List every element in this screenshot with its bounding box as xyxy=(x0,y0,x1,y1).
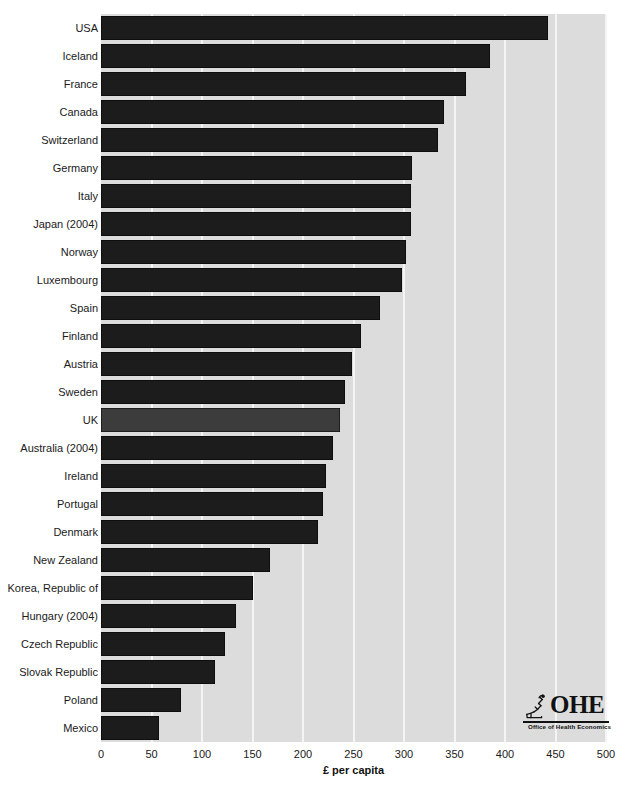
bar-row xyxy=(101,44,606,68)
bar xyxy=(101,72,466,96)
x-tick-label: 100 xyxy=(193,748,211,760)
y-axis-label: Ireland xyxy=(2,464,98,488)
x-tick-label: 400 xyxy=(496,748,514,760)
y-axis-label: Hungary (2004) xyxy=(2,604,98,628)
y-axis-label: France xyxy=(2,72,98,96)
y-axis-label: Finland xyxy=(2,324,98,348)
bar-row xyxy=(101,16,606,40)
microscope-icon xyxy=(522,692,552,722)
y-axis-label: Norway xyxy=(2,240,98,264)
bar-row xyxy=(101,100,606,124)
bar xyxy=(101,296,380,320)
y-axis-label: Mexico xyxy=(2,716,98,740)
bar-row xyxy=(101,380,606,404)
y-axis-label: Portugal xyxy=(2,492,98,516)
chart-figure: USAIcelandFranceCanadaSwitzerlandGermany… xyxy=(0,0,635,799)
y-axis-label: Japan (2004) xyxy=(2,212,98,236)
ohe-logo-wordmark: OHE xyxy=(550,691,604,719)
y-axis-label: Sweden xyxy=(2,380,98,404)
bar-row xyxy=(101,464,606,488)
x-axis-ticks: 050100150200250300350400450500 xyxy=(101,742,606,766)
y-axis-label: Germany xyxy=(2,156,98,180)
x-tick-label: 350 xyxy=(445,748,463,760)
bar-row xyxy=(101,72,606,96)
y-axis-label: Italy xyxy=(2,184,98,208)
bar-row xyxy=(101,212,606,236)
bar-row xyxy=(101,604,606,628)
y-axis-label: Poland xyxy=(2,688,98,712)
x-tick-label: 50 xyxy=(145,748,157,760)
bar xyxy=(101,184,411,208)
bar-row xyxy=(101,324,606,348)
bar-row xyxy=(101,408,606,432)
bar xyxy=(101,716,159,740)
bar xyxy=(101,660,215,684)
x-tick-label: 450 xyxy=(546,748,564,760)
x-tick-label: 150 xyxy=(243,748,261,760)
bar-row xyxy=(101,632,606,656)
bar-row xyxy=(101,576,606,600)
bar xyxy=(101,520,318,544)
x-tick-label: 0 xyxy=(98,748,104,760)
y-axis-label: Korea, Republic of xyxy=(2,576,98,600)
x-tick-label: 250 xyxy=(344,748,362,760)
y-axis-label: Switzerland xyxy=(2,128,98,152)
bar-row xyxy=(101,296,606,320)
y-axis-label: New Zealand xyxy=(2,548,98,572)
y-axis-labels: USAIcelandFranceCanadaSwitzerlandGermany… xyxy=(0,14,98,742)
bar xyxy=(101,632,225,656)
bar xyxy=(101,492,323,516)
x-axis-title: £ per capita xyxy=(101,764,606,776)
bar xyxy=(101,16,548,40)
bar xyxy=(101,44,490,68)
bar-row xyxy=(101,240,606,264)
y-axis-label: Czech Republic xyxy=(2,632,98,656)
bar-row xyxy=(101,352,606,376)
y-axis-label: Spain xyxy=(2,296,98,320)
bar-row xyxy=(101,660,606,684)
y-axis-label: Canada xyxy=(2,100,98,124)
y-axis-label: Slovak Republic xyxy=(2,660,98,684)
bar xyxy=(101,212,411,236)
y-axis-label: Denmark xyxy=(2,520,98,544)
plot-area xyxy=(101,14,606,742)
y-axis-label: USA xyxy=(2,16,98,40)
ohe-logo-tagline: Office of Health Economics xyxy=(528,723,611,730)
bar xyxy=(101,576,253,600)
bar xyxy=(101,688,181,712)
bar-row xyxy=(101,268,606,292)
bar xyxy=(101,100,444,124)
bar-row xyxy=(101,520,606,544)
x-tick-label: 500 xyxy=(597,748,615,760)
y-axis-label: Luxembourg xyxy=(2,268,98,292)
ohe-logo: OHE Office of Health Economics xyxy=(522,692,610,736)
bar xyxy=(101,240,406,264)
y-axis-label: Austria xyxy=(2,352,98,376)
x-tick-label: 200 xyxy=(294,748,312,760)
bar xyxy=(101,268,402,292)
bar-row xyxy=(101,128,606,152)
bar xyxy=(101,352,352,376)
bar xyxy=(101,380,345,404)
x-tick-label: 300 xyxy=(395,748,413,760)
bar xyxy=(101,408,340,432)
bar-row xyxy=(101,156,606,180)
y-axis-label: UK xyxy=(2,408,98,432)
bar-row xyxy=(101,184,606,208)
bar xyxy=(101,464,326,488)
bottom-strip xyxy=(0,783,635,799)
y-axis-label: Iceland xyxy=(2,44,98,68)
bar xyxy=(101,128,438,152)
bar xyxy=(101,324,361,348)
bar-row xyxy=(101,548,606,572)
bar-row xyxy=(101,492,606,516)
bar xyxy=(101,436,333,460)
bar xyxy=(101,548,270,572)
y-axis-label: Australia (2004) xyxy=(2,436,98,460)
bar xyxy=(101,156,412,180)
bar-row xyxy=(101,436,606,460)
bar xyxy=(101,604,236,628)
